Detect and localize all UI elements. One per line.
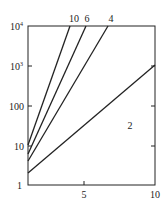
y-tick-label-1000: 103 (10, 61, 23, 72)
curve-base-2 (28, 65, 155, 173)
chart: 1 10 100 103 104 5 10 10 6 4 2 (0, 0, 166, 208)
curves (28, 26, 155, 173)
x-tick-label-10: 10 (150, 189, 160, 200)
x-tick-label-5: 5 (82, 189, 87, 200)
y-tick-label-1: 1 (17, 180, 22, 191)
y-tick-label-100: 100 (9, 101, 24, 112)
curve-label-10: 10 (69, 13, 79, 24)
y-ticks (28, 66, 155, 185)
curve-base-4 (28, 26, 108, 161)
curve-label-4: 4 (109, 13, 114, 24)
curve-label-2: 2 (128, 120, 133, 131)
curve-base-10 (28, 26, 70, 145)
curve-label-6: 6 (85, 13, 90, 24)
y-tick-label-10: 10 (14, 141, 24, 152)
plot-frame (28, 26, 155, 185)
y-tick-label-10000: 104 (10, 21, 23, 32)
curve-base-6 (28, 26, 86, 154)
